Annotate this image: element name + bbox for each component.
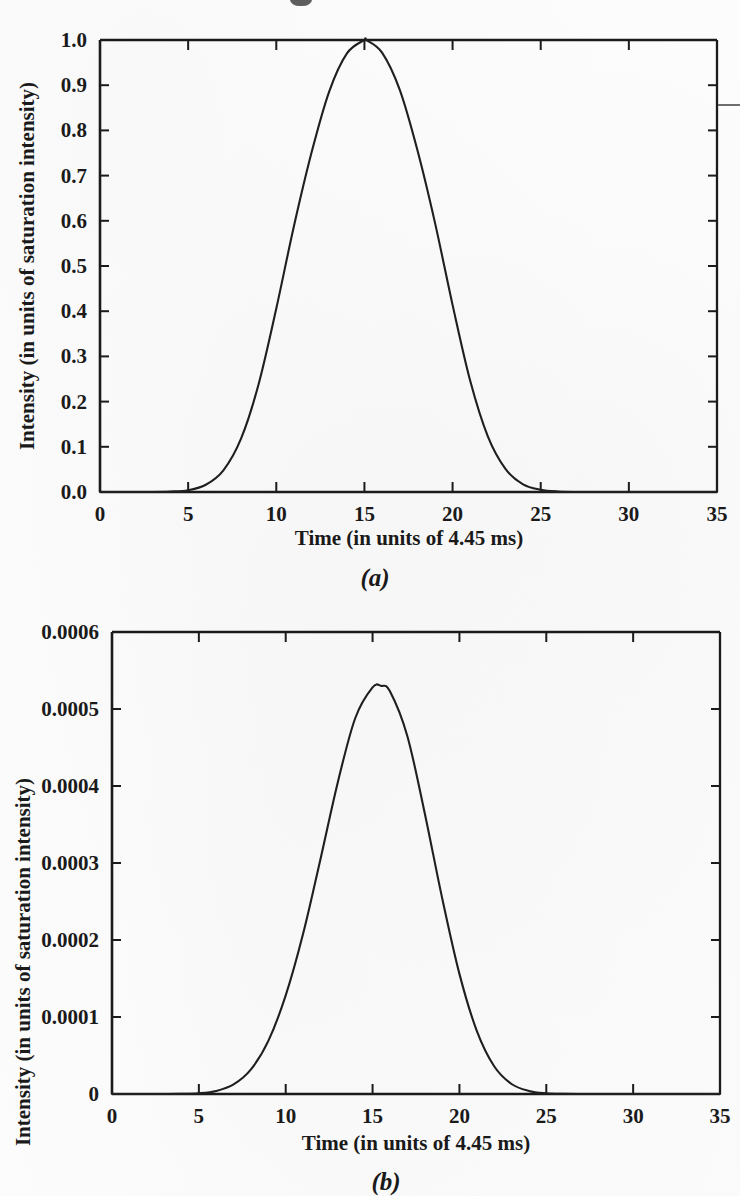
panel-b-y-tick-label: 0.0004: [41, 774, 99, 798]
panel-a-caption: (a): [360, 564, 389, 592]
panel-a-y-tick-label: 0.6: [61, 209, 87, 233]
panel-a-y-tick-label: 0.9: [61, 73, 87, 97]
panel-b-x-tick-label: 15: [362, 1104, 383, 1128]
panel-a-y-tick-label: 0.3: [61, 344, 87, 368]
panel-a-axes: [100, 40, 717, 492]
panel-a-x-tick-label: 20: [442, 502, 463, 526]
panel-a-x-tick-label: 15: [354, 502, 375, 526]
panel-b-caption: (b): [371, 1168, 400, 1196]
panel-a-y-tick-label: 0.0: [61, 480, 87, 504]
figure-panel-b: 00.00010.00020.00030.00040.00050.0006 05…: [0, 598, 740, 1196]
panel-b-x-tick-label: 10: [275, 1104, 296, 1128]
panel-b-x-tick-label: 30: [623, 1104, 644, 1128]
panel-a-y-tick-label: 0.1: [61, 435, 87, 459]
panel-a-x-axis-title: Time (in units of 4.45 ms): [295, 526, 523, 550]
chart-panel-a: 0.00.10.20.30.40.50.60.70.80.91.0 051015…: [0, 0, 740, 600]
panel-b-x-tick-label: 5: [194, 1104, 205, 1128]
panel-b-y-tick-label: 0: [89, 1082, 100, 1106]
panel-b-y-ticks: 00.00010.00020.00030.00040.00050.0006: [41, 620, 720, 1106]
panel-b-y-tick-label: 0.0003: [41, 851, 99, 875]
panel-b-data-curve: [112, 684, 720, 1094]
panel-b-y-axis-title: Intensity (in units of saturation intens…: [11, 778, 35, 1146]
panel-b-axes: [112, 632, 720, 1094]
panel-b-x-tick-label: 25: [536, 1104, 557, 1128]
panel-b-y-tick-label: 0.0002: [41, 928, 99, 952]
panel-a-x-tick-label: 5: [183, 502, 194, 526]
panel-a-y-tick-label: 0.7: [61, 164, 87, 188]
panel-b-x-axis-title: Time (in units of 4.45 ms): [302, 1131, 530, 1155]
panel-a-x-ticks: 05101520253035: [95, 40, 728, 526]
panel-b-x-ticks: 05101520253035: [107, 632, 731, 1128]
panel-a-y-tick-label: 0.8: [61, 118, 87, 142]
panel-b-y-tick-label: 0.0006: [41, 620, 99, 644]
panel-b-x-tick-label: 0: [107, 1104, 118, 1128]
panel-a-x-tick-label: 30: [618, 502, 639, 526]
panel-a-y-tick-label: 0.4: [61, 299, 88, 323]
panel-a-data-curve: [100, 38, 717, 492]
panel-a-y-ticks: 0.00.10.20.30.40.50.60.70.80.91.0: [61, 28, 717, 504]
panel-b-y-tick-label: 0.0005: [41, 697, 99, 721]
panel-a-y-tick-label: 0.5: [61, 254, 87, 278]
chart-panel-b: 00.00010.00020.00030.00040.00050.0006 05…: [0, 598, 740, 1196]
panel-a-x-tick-label: 35: [707, 502, 728, 526]
panel-a-x-tick-label: 10: [266, 502, 287, 526]
panel-b-y-tick-label: 0.0001: [41, 1005, 99, 1029]
figure-panel-a: 0.00.10.20.30.40.50.60.70.80.91.0 051015…: [0, 0, 740, 600]
panel-a-y-tick-label: 1.0: [61, 28, 87, 52]
panel-a-y-axis-title: Intensity (in units of saturation intens…: [15, 82, 39, 450]
panel-b-x-tick-label: 20: [449, 1104, 470, 1128]
panel-a-y-tick-label: 0.2: [61, 390, 87, 414]
panel-b-x-tick-label: 35: [710, 1104, 731, 1128]
panel-a-x-tick-label: 25: [530, 502, 551, 526]
panel-a-x-tick-label: 0: [95, 502, 106, 526]
scanned-page: 0.00.10.20.30.40.50.60.70.80.91.0 051015…: [0, 0, 740, 1196]
